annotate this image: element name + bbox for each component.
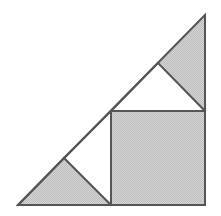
geometry-diagram xyxy=(0,0,221,216)
figure-canvas xyxy=(0,0,221,216)
shaded-square xyxy=(111,111,205,205)
